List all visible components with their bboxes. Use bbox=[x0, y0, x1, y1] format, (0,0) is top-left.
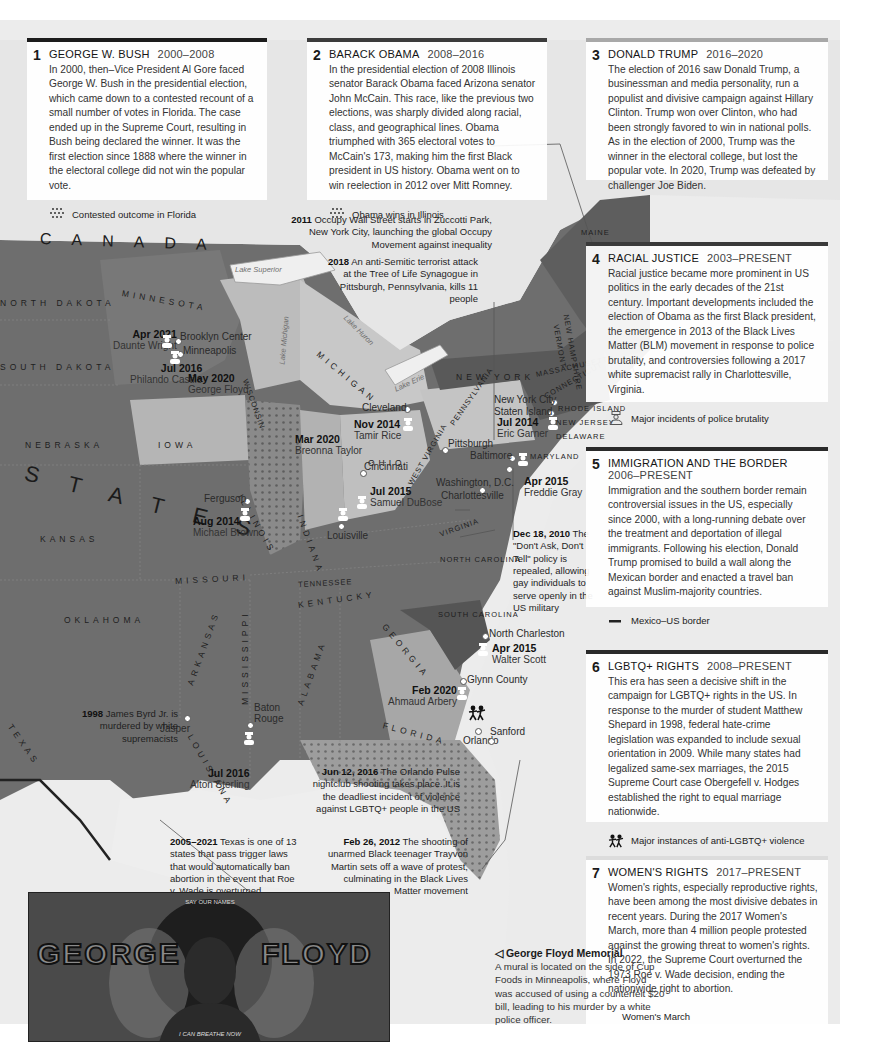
police-officer-icon[interactable] bbox=[336, 507, 350, 521]
incident-label: May 2020 George Floyd bbox=[188, 372, 249, 396]
panel-number: 2 bbox=[313, 47, 321, 63]
state-label: NEW YORK bbox=[456, 372, 534, 382]
city-label: New York City bbox=[494, 394, 556, 405]
incident-date: Jul 2014 bbox=[497, 416, 548, 428]
police-officer-icon[interactable] bbox=[355, 495, 369, 509]
incident-date: Apr 2015 bbox=[524, 475, 582, 487]
city-label: Minneapolis bbox=[183, 345, 236, 356]
city-marker[interactable] bbox=[482, 633, 489, 640]
city-marker[interactable] bbox=[488, 738, 495, 745]
annotation-lead: 2005–2021 bbox=[170, 836, 218, 847]
panel-title: Women's Rights bbox=[608, 866, 708, 878]
city-marker[interactable] bbox=[338, 523, 345, 530]
city-label: Charlottesville bbox=[441, 490, 504, 501]
panel-legend: Major instances of anti-LGBTQ+ violence bbox=[608, 834, 818, 848]
annotation-byrd: 1998 James Byrd Jr. is murdered by white… bbox=[58, 708, 178, 745]
incident-name: Ahmaud Arbery bbox=[388, 696, 457, 708]
annotation-text: James Byrd Jr. is murdered by white supr… bbox=[100, 708, 178, 744]
police-officer-icon[interactable] bbox=[168, 350, 182, 364]
panel-body: This era has seen a decisive shift in th… bbox=[608, 675, 818, 820]
panel-body: Racial justice became more prominent in … bbox=[608, 267, 818, 397]
incident-name: Freddie Gray bbox=[524, 487, 582, 499]
city-marker[interactable] bbox=[184, 715, 191, 722]
city-marker[interactable] bbox=[247, 722, 254, 729]
violence-figures-icon bbox=[608, 834, 624, 848]
police-officer-icon[interactable] bbox=[238, 507, 252, 521]
state-label: MAINE bbox=[581, 228, 610, 237]
incident-label: Apr 2015 Walter Scott bbox=[492, 642, 546, 666]
incident-label: Nov 2014 Tamir Rice bbox=[354, 418, 401, 442]
panel-bush: 1 George W. Bush2000–2008 In 2000, then–… bbox=[27, 38, 267, 200]
panel-obama: 2 Barack Obama2008–2016 In the president… bbox=[307, 38, 547, 200]
police-officer-icon[interactable] bbox=[476, 642, 490, 656]
annotation-lead: 2011 bbox=[291, 214, 312, 225]
legend-label: Contested outcome in Florida bbox=[72, 209, 196, 220]
annotation-lead: Dec 18, 2010 bbox=[513, 528, 570, 539]
panel-legend: Obama wins in Illinois bbox=[329, 207, 537, 221]
city-marker[interactable] bbox=[460, 678, 467, 685]
panel-immigration: 5 Immigration and the Border2006–PRESENT… bbox=[586, 447, 828, 607]
police-officer-icon[interactable] bbox=[546, 416, 560, 430]
dot-pattern-icon bbox=[329, 207, 345, 221]
state-label: NEW JERSEY bbox=[556, 418, 615, 427]
panel-racial-justice: 4 Racial Justice2003–PRESENT Racial just… bbox=[586, 242, 828, 402]
state-label: DELAWARE bbox=[556, 432, 606, 441]
police-officer-icon[interactable] bbox=[516, 452, 530, 466]
police-officer-icon[interactable] bbox=[160, 334, 174, 348]
city-label: Cleveland bbox=[362, 402, 406, 413]
panel-legend: Major incidents of police brutality bbox=[608, 411, 818, 425]
violence-figures-icon[interactable] bbox=[468, 705, 486, 721]
police-officer-icon[interactable] bbox=[401, 417, 415, 431]
panel-years: 2016–2020 bbox=[706, 48, 763, 60]
annotation-lead: 1998 bbox=[82, 708, 103, 719]
city-label: North Charleston bbox=[489, 628, 565, 639]
dot-pattern-icon bbox=[49, 207, 65, 221]
mural-bottom-text: I CAN BREATHE NOW bbox=[29, 1031, 390, 1037]
city-label: Cincinnati bbox=[364, 461, 408, 472]
state-label: NORTH CAROLINA bbox=[440, 555, 521, 564]
panel-title: Barack Obama bbox=[329, 48, 419, 60]
annotation-trigger-laws: 2005–2021 Texas is one of 13 states that… bbox=[170, 836, 300, 898]
city-marker[interactable] bbox=[475, 728, 482, 735]
panel-title: Immigration and the Border bbox=[608, 457, 818, 469]
state-label: OKLAHOMA bbox=[64, 615, 144, 625]
city-label: Baltimore bbox=[470, 450, 512, 461]
panel-number: 3 bbox=[592, 47, 600, 63]
state-label: KANSAS bbox=[40, 534, 99, 544]
state-label: NORTH DAKOTA bbox=[0, 298, 115, 308]
incident-date: Feb 2020 bbox=[388, 684, 457, 696]
city-marker[interactable] bbox=[506, 466, 513, 473]
panel-years: 2000–2008 bbox=[158, 48, 215, 60]
city-label: Brooklyn Center bbox=[180, 331, 252, 342]
panel-years: 2008–PRESENT bbox=[707, 660, 792, 672]
incident-date: Mar 2020 bbox=[295, 433, 362, 445]
caption-arrow-icon: ◁ bbox=[495, 947, 503, 959]
panel-years: 2003–PRESENT bbox=[707, 252, 792, 264]
incident-date: Apr 2015 bbox=[492, 642, 546, 654]
state-label: MARYLAND bbox=[530, 452, 580, 461]
panel-title: Donald Trump bbox=[608, 48, 698, 60]
incident-name: Eric Garner bbox=[497, 428, 548, 440]
incident-date: Jul 2016 bbox=[190, 767, 249, 779]
panel-years: 2006–PRESENT bbox=[608, 469, 818, 481]
city-label: Glynn County bbox=[467, 674, 528, 685]
border-line-icon bbox=[608, 614, 624, 628]
incident-label: Mar 2020 Breonna Taylor bbox=[295, 433, 362, 457]
incident-label: Jul 2016 Alton Sterling bbox=[190, 767, 249, 791]
panel-trump: 3 Donald Trump2016–2020 The election of … bbox=[586, 38, 828, 180]
incident-date: Nov 2014 bbox=[354, 418, 401, 430]
police-officer-icon bbox=[608, 411, 624, 425]
panel-number: 4 bbox=[592, 251, 600, 267]
panel-number: 1 bbox=[33, 47, 41, 63]
incident-name: Tamir Rice bbox=[354, 430, 401, 442]
police-officer-icon[interactable] bbox=[455, 686, 469, 700]
annotation-pulse: Jun 12, 2016 The Orlando Pulse nightclub… bbox=[312, 766, 460, 815]
state-label: SOUTH CAROLINA bbox=[438, 610, 519, 619]
legend-label: Obama wins in Illinois bbox=[352, 209, 444, 220]
panel-legend: Contested outcome in Florida bbox=[49, 207, 257, 221]
city-label: Pittsburgh bbox=[448, 438, 493, 449]
legend-label: Mexico–US border bbox=[631, 615, 710, 626]
mural-right-word: FLOYD bbox=[261, 937, 373, 971]
annotation-text: The "Don't Ask, Don't Tell" policy is re… bbox=[513, 528, 593, 613]
police-officer-icon[interactable] bbox=[242, 731, 256, 745]
